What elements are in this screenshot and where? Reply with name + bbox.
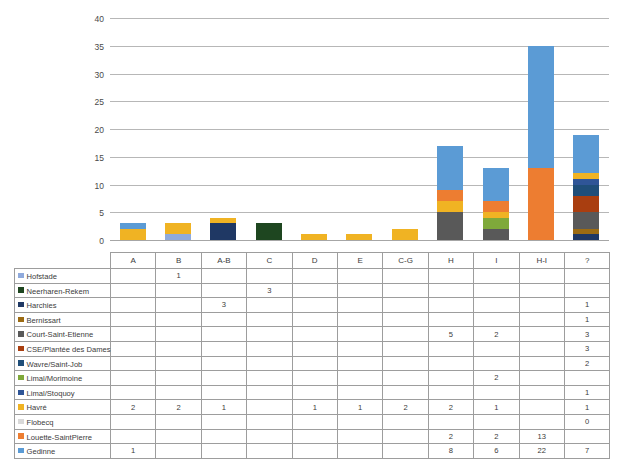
data-table: ABA-BCDEC-GHIH-I? Hofstade1Neerharen-Rek… [14, 252, 610, 459]
stacked-bar-chart: 0510152025303540 [0, 0, 621, 252]
table-cell [337, 312, 382, 327]
legend-swatch-icon [18, 419, 24, 425]
bar-group-c[interactable] [246, 18, 291, 240]
table-cell [428, 414, 473, 429]
legend-label: Limal/Morimoine [27, 374, 83, 383]
table-cell [247, 269, 292, 284]
table-cell [111, 283, 156, 298]
table-cell: 2 [111, 400, 156, 415]
legend-swatch-icon [18, 287, 24, 293]
table-cell [201, 371, 246, 386]
legend-cell: Bernissart [15, 312, 111, 327]
table-column-header: H [428, 253, 473, 269]
legend-swatch-icon [18, 448, 24, 454]
table-cell [156, 356, 201, 371]
table-cell [383, 444, 428, 459]
bar-segment [483, 229, 509, 240]
table-cell [156, 414, 201, 429]
table-cell [564, 283, 609, 298]
table-cell [292, 298, 337, 313]
table-cell: 2 [156, 400, 201, 415]
bar-group-d[interactable] [291, 18, 336, 240]
y-axis-tick-label: 20 [78, 125, 104, 135]
table-cell [337, 341, 382, 356]
table-cell: 2 [474, 327, 519, 342]
legend-cell: Court-Saint-Etienne [15, 327, 111, 342]
y-axis-tick-label: 5 [78, 208, 104, 218]
table-cell: 0 [564, 414, 609, 429]
bar-segment [483, 218, 509, 229]
table-body: Hofstade1Neerharen-Rekem3Harchies31Berni… [15, 269, 610, 459]
table-cell [156, 312, 201, 327]
table-cell [428, 269, 473, 284]
bar-group-a-b[interactable] [201, 18, 246, 240]
bar-stack [437, 146, 463, 240]
bar-group-i[interactable] [473, 18, 518, 240]
bar-group-a[interactable] [110, 18, 155, 240]
legend-swatch-icon [18, 273, 24, 279]
table-header-row: ABA-BCDEC-GHIH-I? [15, 253, 610, 269]
table-row: Wavre/Saint-Job2 [15, 356, 610, 371]
table-cell [111, 414, 156, 429]
bar-group--[interactable] [564, 18, 609, 240]
table-row: CSE/Plantée des Dames3 [15, 341, 610, 356]
table-cell: 2 [564, 356, 609, 371]
table-cell: 3 [201, 298, 246, 313]
table-row: Bernissart1 [15, 312, 610, 327]
table-cell [156, 327, 201, 342]
table-column-header: E [337, 253, 382, 269]
y-axis-tick-label: 15 [78, 153, 104, 163]
bar-segment [120, 229, 146, 240]
bar-group-h-i[interactable] [518, 18, 563, 240]
table-cell [111, 298, 156, 313]
bar-segment [528, 168, 554, 240]
bar-group-b[interactable] [155, 18, 200, 240]
table-cell [247, 414, 292, 429]
legend-cell: Gedinne [15, 444, 111, 459]
table-cell [337, 429, 382, 444]
table-cell [519, 356, 564, 371]
table-cell: 8 [428, 444, 473, 459]
table-cell [156, 341, 201, 356]
bar-segment [573, 196, 599, 213]
bar-group-e[interactable] [337, 18, 382, 240]
table-cell [383, 283, 428, 298]
bar-segment [573, 212, 599, 229]
table-cell [292, 371, 337, 386]
table-cell [383, 298, 428, 313]
legend-label: Flobecq [27, 417, 54, 426]
table-row: Havré221112211 [15, 400, 610, 415]
bar-group-h[interactable] [428, 18, 473, 240]
bar-segment [210, 223, 236, 240]
legend-label: Wavre/Saint-Job [27, 359, 83, 368]
table-cell [519, 327, 564, 342]
legend-swatch-icon [18, 433, 24, 439]
table-cell [337, 269, 382, 284]
table-cell [383, 312, 428, 327]
table-cell: 3 [247, 283, 292, 298]
table-cell [383, 385, 428, 400]
table-cell [156, 429, 201, 444]
table-column-header: C-G [383, 253, 428, 269]
bar-group-c-g[interactable] [382, 18, 427, 240]
table-cell: 3 [564, 327, 609, 342]
table-row: Gedinne186227 [15, 444, 610, 459]
table-row: Limal/Morimoine2 [15, 371, 610, 386]
legend-swatch-icon [18, 346, 24, 352]
table-cell: 1 [156, 269, 201, 284]
table-cell [292, 385, 337, 400]
table-cell [474, 312, 519, 327]
table-cell [383, 414, 428, 429]
table-cell: 1 [111, 444, 156, 459]
legend-label: Bernissart [27, 315, 61, 324]
bar-segment [573, 135, 599, 174]
table-cell [519, 312, 564, 327]
bar-stack [256, 223, 282, 240]
table-row: Limal/Stoquoy1 [15, 385, 610, 400]
table-cell [428, 283, 473, 298]
table-column-header: B [156, 253, 201, 269]
table-cell [247, 312, 292, 327]
table-cell [292, 327, 337, 342]
bar-segment [573, 185, 599, 196]
legend-swatch-icon [18, 360, 24, 366]
